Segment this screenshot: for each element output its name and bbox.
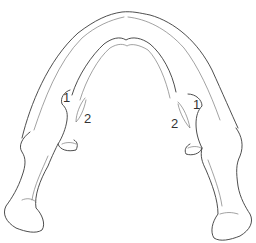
inner-arch-outline <box>72 38 176 95</box>
left-condyle-head <box>22 199 36 202</box>
left-coronoid-tip <box>62 143 76 145</box>
left-condyle-outline <box>4 132 58 232</box>
alveolar-ridge-left <box>34 17 124 130</box>
right-structure-2-outline <box>178 102 190 128</box>
alveolar-ridge-right <box>128 17 220 120</box>
right-condyle-head <box>220 213 238 215</box>
outer-arch-outline <box>22 12 238 138</box>
mandible-drawing <box>0 0 256 243</box>
label-right-1: 1 <box>193 98 200 111</box>
inner-arch-outline-2 <box>80 44 170 100</box>
mandible-diagram: 1 2 1 2 <box>0 0 256 243</box>
right-condyle-neck <box>208 160 222 206</box>
label-left-1: 1 <box>63 91 70 104</box>
label-left-2: 2 <box>84 112 91 125</box>
label-right-2: 2 <box>171 117 178 130</box>
left-condyle-neck <box>32 156 48 200</box>
right-condyle-outline <box>201 128 251 240</box>
right-coronoid-tip <box>188 147 201 149</box>
